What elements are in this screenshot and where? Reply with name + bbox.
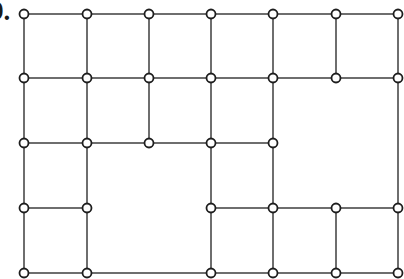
vertex-r3c6 [394, 204, 403, 213]
vertex-r0c0 [20, 10, 29, 19]
vertex-r0c5 [332, 10, 341, 19]
vertex-r1c5 [332, 74, 341, 83]
vertex-r1c6 [394, 74, 403, 83]
vertex-r4c1 [83, 269, 92, 278]
vertex-r2c2 [145, 139, 154, 148]
grid-graph [0, 0, 404, 279]
vertex-r0c2 [145, 10, 154, 19]
vertex-r0c1 [83, 10, 92, 19]
vertex-r4c6 [394, 269, 403, 278]
vertex-r4c5 [332, 269, 341, 278]
vertex-r3c4 [269, 204, 278, 213]
vertex-r2c1 [83, 139, 92, 148]
vertex-r3c5 [332, 204, 341, 213]
vertex-r4c3 [207, 269, 216, 278]
vertex-r1c4 [269, 74, 278, 83]
vertex-r1c1 [83, 74, 92, 83]
figure-number-label: 9. [0, 0, 10, 25]
vertex-r1c3 [207, 74, 216, 83]
vertex-r2c3 [207, 139, 216, 148]
vertex-r0c4 [269, 10, 278, 19]
vertex-r3c3 [207, 204, 216, 213]
vertex-r3c0 [20, 204, 29, 213]
vertex-r1c0 [20, 74, 29, 83]
vertex-r2c0 [20, 139, 29, 148]
vertex-r0c6 [394, 10, 403, 19]
vertex-r3c1 [83, 204, 92, 213]
graph-figure: 9. [0, 0, 404, 279]
vertex-r0c3 [207, 10, 216, 19]
vertex-r2c4 [269, 139, 278, 148]
vertex-r1c2 [145, 74, 154, 83]
vertex-r4c0 [20, 269, 29, 278]
vertex-r4c4 [269, 269, 278, 278]
